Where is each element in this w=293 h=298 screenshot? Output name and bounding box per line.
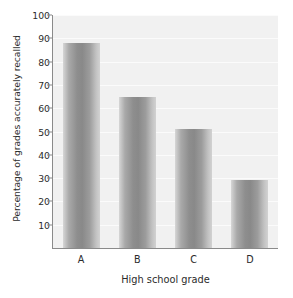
y-axis-label: Percentage of grades accurately recalled [11,9,22,249]
x-tick-label: A [78,254,85,265]
gridline [53,38,278,39]
x-axis-label: High school grade [0,274,293,285]
y-axis-line [52,15,53,249]
plot-area [53,15,278,248]
bar [119,97,156,248]
y-axis-tick-labels: 102030405060708090100 [26,0,50,298]
gridline [53,15,278,16]
bar [175,129,212,248]
bar-chart-figure: Percentage of grades accurately recalled… [0,0,293,298]
x-tick-label: D [246,254,253,265]
x-axis-line [52,248,278,249]
bar [231,180,268,248]
x-tick-label: B [134,254,141,265]
bar [63,43,100,248]
x-tick-label: C [190,254,197,265]
